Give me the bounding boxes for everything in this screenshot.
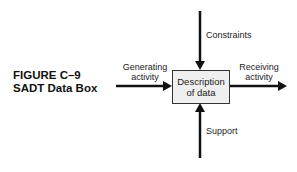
arrows-layer [0, 0, 297, 172]
data-box: Description of data [172, 70, 230, 104]
output-arrow [229, 81, 287, 91]
box-label-line1: Description [177, 76, 225, 87]
control-label: Constraints [206, 30, 252, 40]
mechanism-arrow [195, 103, 205, 158]
control-arrow [195, 11, 205, 70]
input-label: Generating activity [118, 62, 172, 82]
input-arrow [116, 81, 172, 91]
box-label-line2: of data [177, 87, 225, 98]
mechanism-label: Support [206, 126, 238, 136]
output-label: Receiving activity [234, 62, 284, 82]
